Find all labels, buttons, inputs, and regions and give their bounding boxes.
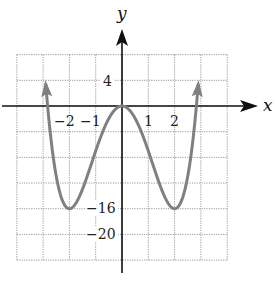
x-axis-label: x [263,95,273,115]
x-tick-label-2: 2 [170,113,179,129]
x-tick-label-1: 1 [144,113,153,129]
axes [2,29,258,273]
y-tick-label-4: 4 [103,73,112,89]
function-graph: x y −2 −1 1 2 4 −16 −20 [0,0,276,293]
axis-labels: x y −2 −1 1 2 4 −16 −20 [54,3,273,242]
y-tick-label-neg20: −20 [86,226,116,242]
y-axis-label: y [116,3,127,23]
x-tick-label-neg2: −2 [54,113,75,129]
x-tick-label-neg1: −1 [80,113,101,129]
y-tick-label-neg16: −16 [86,200,116,216]
